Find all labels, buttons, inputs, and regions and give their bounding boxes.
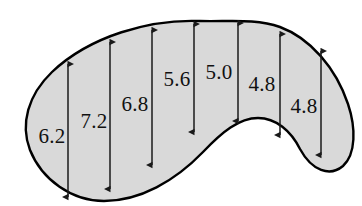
figure-container: 6.2 7.2 6.8 5.6 5.0 4.8 4.8 [0,0,362,206]
chord-label-3: 6.8 [122,94,149,115]
chord-label-2: 7.2 [81,111,108,132]
chord-label-1: 6.2 [39,126,66,147]
chord-label-5: 5.0 [206,62,233,83]
chord-label-7: 4.8 [291,96,318,117]
chord-label-4: 5.6 [164,69,191,90]
chord-label-6: 4.8 [249,74,276,95]
